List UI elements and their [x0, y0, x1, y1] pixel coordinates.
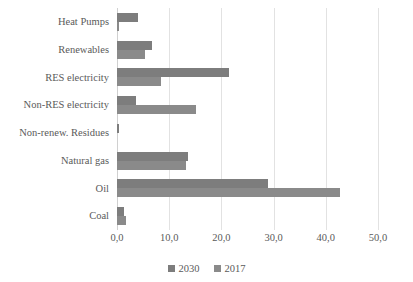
y-axis-label: Renewables — [0, 36, 113, 64]
y-axis-label: Coal — [0, 202, 113, 230]
legend-swatch-icon — [214, 265, 221, 272]
y-axis-label: RES electricity — [0, 64, 113, 92]
bar-pair — [117, 175, 378, 203]
legend-item-2030[interactable]: 2030 — [168, 263, 200, 274]
bar-chart: Heat PumpsRenewablesRES electricityNon-R… — [0, 0, 413, 282]
x-axis-tick-label: 10,0 — [160, 232, 178, 243]
bar-2030 — [117, 152, 188, 161]
bar-pair — [117, 8, 378, 36]
bar-2030 — [117, 41, 152, 50]
bar-2030 — [117, 96, 136, 105]
bar-2017 — [117, 77, 161, 86]
x-axis-tick-label: 50,0 — [369, 232, 387, 243]
legend-label: 2017 — [225, 263, 246, 274]
bar-group — [117, 147, 378, 175]
legend-label: 2030 — [179, 263, 200, 274]
bar-2017 — [117, 105, 196, 114]
plot-area — [117, 8, 378, 230]
y-axis-category-labels: Heat PumpsRenewablesRES electricityNon-R… — [0, 8, 113, 230]
bar-pair — [117, 91, 378, 119]
bar-2017 — [117, 216, 126, 225]
bar-pair — [117, 36, 378, 64]
y-axis-label: Non-renew. Residues — [0, 119, 113, 147]
bar-group — [117, 8, 378, 36]
bar-2017 — [117, 22, 119, 31]
bar-rows — [117, 8, 378, 230]
y-axis-label: Natural gas — [0, 147, 113, 175]
bar-group — [117, 175, 378, 203]
x-axis-tick-label: 20,0 — [212, 232, 230, 243]
legend-swatch-icon — [168, 265, 175, 272]
x-axis-tick-label: 30,0 — [264, 232, 282, 243]
bar-pair — [117, 202, 378, 230]
chart-legend: 20302017 — [0, 260, 413, 276]
bar-group — [117, 36, 378, 64]
legend-item-2017[interactable]: 2017 — [214, 263, 246, 274]
y-axis-label: Oil — [0, 175, 113, 203]
bar-pair — [117, 64, 378, 92]
bar-2017 — [117, 161, 186, 170]
bar-group — [117, 202, 378, 230]
bar-2017 — [117, 188, 340, 197]
gridline-5 — [378, 8, 379, 230]
y-axis-label: Heat Pumps — [0, 8, 113, 36]
x-axis-tick-label: 0,0 — [110, 232, 123, 243]
bar-pair — [117, 119, 378, 147]
x-axis-tick-label: 40,0 — [317, 232, 335, 243]
bar-group — [117, 119, 378, 147]
bar-2030 — [117, 13, 138, 22]
bar-group — [117, 91, 378, 119]
bar-group — [117, 64, 378, 92]
bar-2030 — [117, 207, 124, 216]
bar-2030 — [117, 179, 268, 188]
y-axis-label: Non-RES electricity — [0, 91, 113, 119]
bar-pair — [117, 147, 378, 175]
bar-2017 — [117, 50, 145, 59]
x-axis-tick-labels: 0,010,020,030,040,050,0 — [117, 232, 378, 248]
bar-2030 — [117, 68, 229, 77]
bar-2030 — [117, 124, 119, 133]
